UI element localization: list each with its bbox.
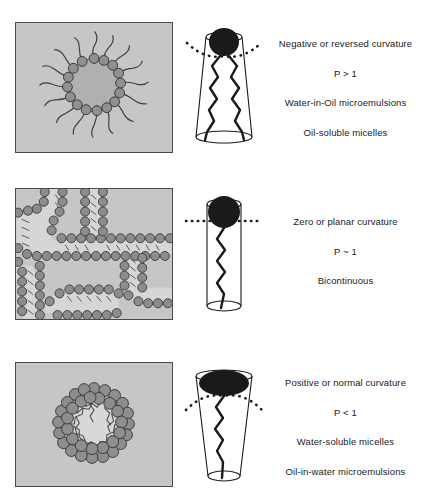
- head-group: [209, 28, 239, 56]
- head-group: [199, 370, 249, 396]
- inverted-cone-surfactant: [183, 22, 265, 153]
- figure-row-positive-curvature: Positive or normal curvature P < 1 Water…: [0, 362, 425, 487]
- label-curvature: Negative or reversed curvature: [279, 39, 412, 49]
- label-block-negative-curvature: Negative or reversed curvature P > 1 Wat…: [266, 22, 425, 170]
- bicontinuous-illustration: [15, 188, 173, 320]
- label-packing-parameter: P ~ 1: [334, 247, 357, 257]
- label-micelle-type: Water-soluble micelles: [297, 437, 394, 447]
- label-microemulsion-type: Oil-in-water microemulsions: [286, 467, 406, 477]
- label-packing-parameter: P < 1: [334, 408, 357, 418]
- label-block-zero-curvature: Zero or planar curvature P ~ 1 Bicontinu…: [266, 188, 425, 349]
- label-block-positive-curvature: Positive or normal curvature P < 1 Water…: [266, 362, 425, 498]
- head-group: [208, 196, 240, 228]
- tail-chain: [215, 396, 224, 478]
- label-structure-type: Bicontinuous: [318, 276, 374, 286]
- normal-micelle-illustration: [15, 362, 173, 487]
- figure-row-zero-curvature: Zero or planar curvature P ~ 1 Bicontinu…: [0, 188, 425, 320]
- tail-chain: [217, 228, 225, 308]
- label-curvature: Zero or planar curvature: [293, 217, 397, 227]
- label-micelle-type: Oil-soluble micelles: [304, 128, 388, 138]
- reverse-micelle-illustration: [15, 22, 173, 153]
- figure-row-negative-curvature: Negative or reversed curvature P > 1 Wat…: [0, 22, 425, 153]
- label-packing-parameter: P > 1: [334, 69, 357, 79]
- label-microemulsion-type: Water-in-Oil microemulsions: [285, 98, 407, 108]
- upright-cone-surfactant: [183, 362, 265, 487]
- cylinder-surfactant: [183, 188, 265, 320]
- label-curvature: Positive or normal curvature: [285, 378, 406, 388]
- tail-chains: [205, 56, 244, 140]
